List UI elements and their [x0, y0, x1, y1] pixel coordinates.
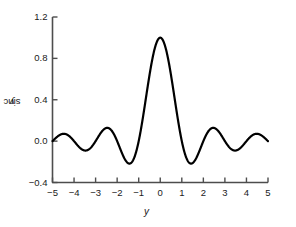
y-tick-label: 0.8	[34, 53, 47, 63]
y-tick-label: 1.2	[34, 12, 47, 22]
x-tick-label: −2	[105, 188, 129, 198]
x-tick-label: −5	[41, 188, 65, 198]
x-tick-label: 2	[191, 188, 215, 198]
y-axis-title-variable: y	[10, 97, 15, 108]
x-tick-label: 4	[234, 188, 258, 198]
y-tick-label: 0.4	[34, 95, 47, 105]
sinc-curve	[53, 38, 269, 164]
sinc-function-chart: −0.40.00.40.81.2 −5−4−3−2−1012345 sinc y…	[0, 0, 296, 227]
x-tick-label: 1	[170, 188, 194, 198]
x-tick-label: 0	[148, 188, 172, 198]
y-axis-title: sinc y	[4, 74, 20, 130]
x-tick-label: −3	[84, 188, 108, 198]
axes-group	[52, 17, 268, 183]
y-tick-label: −0.4	[29, 178, 48, 188]
x-axis-title: y	[144, 207, 149, 217]
y-tick-label: 0.0	[34, 136, 47, 146]
x-tick-label: 5	[256, 188, 280, 198]
x-tick-label: −4	[62, 188, 86, 198]
x-tick-label: 3	[213, 188, 237, 198]
x-tick-label: −1	[127, 188, 151, 198]
